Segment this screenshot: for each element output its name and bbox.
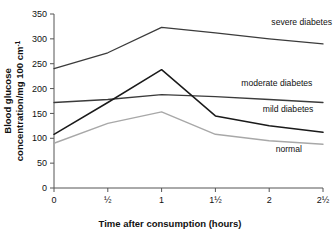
x-tick-label: 2½ [317, 195, 330, 205]
x-tick-label: 1½ [209, 195, 222, 205]
y-tick-label: 100 [32, 133, 47, 143]
series-label-mild-diabetes: mild diabetes [263, 104, 314, 114]
y-tick-label: 50 [37, 158, 47, 168]
plot-surface [0, 0, 336, 232]
series-label-normal: normal [276, 144, 302, 154]
chart-figure: 0501001502002503003500½11½22½ severe dia… [0, 0, 336, 232]
y-axis-title-line1: Blood glucose [2, 68, 13, 133]
x-tick-label: 0 [51, 195, 56, 205]
series-label-severe-diabetes: severe diabetes [271, 17, 332, 27]
x-axis-title: Time after consumption (hours) [99, 218, 242, 229]
x-tick-label: ½ [104, 195, 112, 205]
y-axis-title-line2: concentration/mg 100 cm-1 [14, 40, 26, 161]
y-axis-title-superscript: -1 [14, 40, 21, 46]
y-tick-label: 350 [32, 9, 47, 19]
x-axis-title-text: Time after consumption (hours) [99, 218, 242, 229]
x-tick-label: 1 [159, 195, 164, 205]
line-chart: 0501001502002503003500½11½22½ severe dia… [0, 0, 336, 232]
y-axis-title-line2-text: concentration/mg 100 cm [14, 47, 25, 162]
y-tick-label: 200 [32, 84, 47, 94]
x-tick-label: 2 [267, 195, 272, 205]
y-tick-label: 150 [32, 109, 47, 119]
y-tick-label: 0 [42, 183, 47, 193]
y-tick-label: 300 [32, 34, 47, 44]
series-label-moderate-diabetes: moderate diabetes [241, 78, 312, 88]
y-tick-label: 250 [32, 59, 47, 69]
